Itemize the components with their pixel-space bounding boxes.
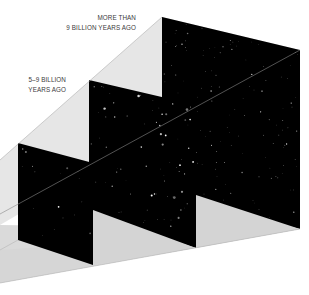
label-5-9-billion: 5–9 BILLION YEARS AGO [28,75,66,95]
label-mid-line-2: YEARS AGO [28,85,66,95]
label-far-line-1: MORE THAN [66,13,136,23]
label-far-line-2: 9 BILLION YEARS AGO [66,23,136,33]
label-more-than-9-billion: MORE THAN 9 BILLION YEARS AGO [66,13,136,33]
label-mid-line-1: 5–9 BILLION [28,75,66,85]
look-back-time-diagram [0,0,309,295]
